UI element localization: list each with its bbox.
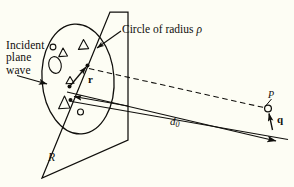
circle-radius-text: Circle of radius <box>122 23 196 35</box>
distance-label: d0 <box>170 116 180 130</box>
incident-wave-label: Incident plane wave <box>6 39 44 76</box>
rho-symbol: ρ <box>196 23 202 35</box>
scatterer-triangle <box>59 48 68 57</box>
scattering-vector-label: q <box>277 114 283 126</box>
scattering-diagram-figure: Incident plane wave Circle of radius ρ R… <box>0 0 294 187</box>
scatterer-triangle <box>59 96 70 109</box>
point-p-label: P <box>268 90 274 101</box>
scatterer-ellipse <box>47 55 63 74</box>
inward-direction-arrow <box>74 97 128 107</box>
circle-radius-label: Circle of radius ρ <box>122 23 202 35</box>
dashed-reference-ray <box>89 69 266 109</box>
scatterer-circle <box>50 44 56 50</box>
scatterer-circle <box>78 109 84 115</box>
point-p-marker <box>265 105 272 112</box>
position-vector-label: r <box>88 74 93 86</box>
r-vector-tip-dot <box>86 64 90 68</box>
plane-region-label: R <box>48 151 55 163</box>
q-vector <box>269 114 273 131</box>
distance-subscript: 0 <box>176 120 180 129</box>
d0-origin-dot <box>69 98 73 102</box>
scatterer-triangle <box>78 40 88 50</box>
aperture-circle <box>38 22 117 137</box>
